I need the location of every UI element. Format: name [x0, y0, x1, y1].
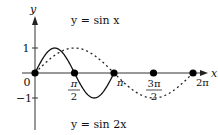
y-tick-label-neg1: −1: [16, 92, 32, 105]
tick-label-pi-half-den: 2: [71, 91, 77, 102]
zero-point-marker: [71, 69, 78, 76]
zero-point-marker: [31, 69, 38, 76]
tick-label-2pi: 2π: [196, 77, 209, 88]
zero-point-marker: [110, 69, 117, 76]
zero-point-marker: [150, 69, 157, 76]
x-axis-label: x: [211, 67, 218, 80]
y-axis-arrow-icon: [32, 16, 38, 25]
y-axis-label: y: [29, 3, 37, 16]
y-tick-label-1: 1: [23, 42, 30, 55]
sin-2x-annotation: y = sin 2x: [70, 118, 127, 131]
x-axis-arrow-icon: [200, 70, 208, 76]
tick-label-pi: π: [116, 77, 124, 88]
tick-label-pi-half-num: π: [70, 78, 78, 89]
zero-point-marker: [189, 69, 196, 76]
origin-label: 0: [24, 76, 31, 89]
tick-label-3pi-half-den: 2: [151, 91, 157, 102]
sine-graph: y x 1 −1 0 π 2 π 3π 2 2π y = sin x y = s…: [0, 0, 218, 135]
sin-x-annotation: y = sin x: [70, 14, 120, 27]
tick-label-3pi-half-num: 3π: [148, 78, 161, 89]
